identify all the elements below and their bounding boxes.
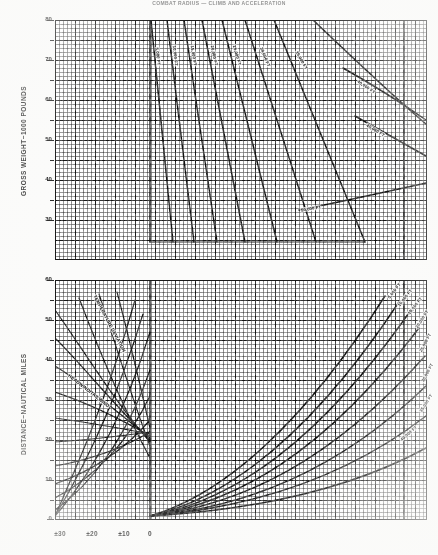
lower-ytick-30: 30 [36,396,52,402]
upper-tick-70 [47,60,54,61]
lower-tick-20 [47,440,54,441]
upper-tick-60 [47,100,54,101]
upper-tick-55 [50,120,54,121]
lower-tick-5 [50,500,54,501]
xtick-minus20: ±20 [79,530,105,537]
upper-tick-80 [47,20,54,21]
lower-tick-0 [47,519,54,520]
lower-tick-30 [47,400,54,401]
upper-ytick-60: 60 [36,96,52,102]
upper-curves [55,20,427,260]
xtick-minus10: ±10 [111,530,137,537]
lower-tick-10 [47,480,54,481]
upper-ytick-80: 80 [36,16,52,22]
upper-ytick-40: 40 [36,176,52,182]
upper-ytick-70: 70 [36,56,52,62]
chart-title: COMBAT RADIUS — CLIMB AND ACCELERATION [0,0,438,8]
xtick-minus30: ±30 [47,530,73,537]
lower-ytick-40: 40 [36,356,52,362]
lower-tick-60 [47,280,54,281]
upper-tick-65 [50,80,54,81]
lower-tick-40 [47,360,54,361]
lower-y-axis-label: DISTANCE~NAUTICAL MILES [20,353,27,455]
lower-tick-35 [50,380,54,381]
lower-curves [55,280,427,520]
lower-tick-55 [50,300,54,301]
lower-ytick-0: 0 [36,515,52,521]
lower-ytick-10: 10 [36,476,52,482]
lower-tick-25 [50,420,54,421]
upper-ytick-50: 50 [36,136,52,142]
upper-plot-panel [55,20,427,260]
upper-y-axis-label: GROSS WEIGHT~1000 POUNDS [20,86,27,196]
lower-tick-15 [50,460,54,461]
upper-tick-45 [50,160,54,161]
upper-ytick-30: 30 [36,216,52,222]
xtick-zero: 0 [137,530,163,537]
lower-ytick-50: 50 [36,316,52,322]
upper-tick-40 [47,180,54,181]
chart-page: COMBAT RADIUS — CLIMB AND ACCELERATION G… [0,0,438,555]
upper-tick-50 [47,140,54,141]
upper-tick-35 [50,200,54,201]
lower-tick-50 [47,320,54,321]
lower-ytick-20: 20 [36,436,52,442]
upper-tick-75 [50,40,54,41]
lower-plot-panel [55,280,427,520]
upper-tick-30 [47,220,54,221]
lower-tick-45 [50,340,54,341]
lower-ytick-60: 60 [36,276,52,282]
